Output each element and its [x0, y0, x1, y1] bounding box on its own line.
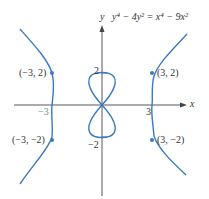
tick-label-y-neg2: −2 [88, 140, 99, 150]
point-label-neg3-2: (−3, 2) [19, 68, 46, 78]
tick-label-y-2: 2 [94, 66, 99, 76]
equation-label: y⁴ − 4y² = x⁴ − 9x² [112, 12, 188, 22]
point-label-3-neg2: (3, −2) [157, 135, 184, 145]
point-neg3-2 [50, 71, 54, 75]
point-3-neg2 [150, 138, 154, 142]
point-3-2 [150, 71, 154, 75]
curve-plot [0, 0, 209, 199]
y-axis-label: y [100, 12, 104, 22]
point-label-neg3-neg2: (−3, −2) [12, 135, 45, 145]
point-neg3-neg2 [50, 138, 54, 142]
y-axis-arrow-icon [100, 25, 105, 32]
x-axis-label: x [190, 99, 194, 109]
tick-label-x-neg3: −3 [38, 107, 49, 117]
tick-label-x-3: 3 [146, 107, 151, 117]
x-axis-arrow-icon [180, 103, 187, 108]
point-label-3-2: (3, 2) [157, 68, 179, 78]
